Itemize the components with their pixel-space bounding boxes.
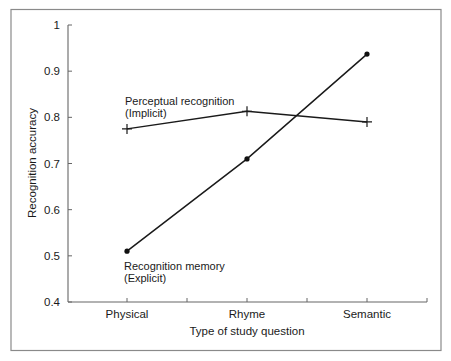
line-chart: 0.40.50.60.70.80.91 PhysicalRhymeSemanti… [0, 0, 451, 361]
explicit-series-label-line2: (Explicit) [124, 272, 166, 284]
explicit-series-line [127, 54, 367, 251]
dot-marker-icon [124, 249, 129, 254]
x-axis-title: Type of study question [189, 325, 304, 337]
y-tick-label: 0.8 [44, 111, 60, 123]
chart-frame [11, 10, 441, 351]
y-tick-label: 0.6 [44, 204, 60, 216]
y-axis: 0.40.50.60.70.80.91 [44, 19, 72, 308]
y-tick-label: 0.9 [44, 65, 60, 77]
series-layer [122, 51, 372, 253]
y-tick-label: 0.4 [44, 296, 61, 308]
dot-marker-icon [364, 51, 369, 56]
plus-marker-icon [242, 106, 252, 116]
x-axis: PhysicalRhymeSemantic [68, 298, 427, 320]
x-tick-label: Semantic [343, 308, 391, 320]
implicit-series-label-line2: (Implicit) [125, 107, 167, 119]
dot-marker-icon [244, 156, 249, 161]
y-tick-label: 1 [54, 19, 60, 31]
y-tick-label: 0.5 [44, 250, 60, 262]
x-tick-label: Physical [106, 308, 149, 320]
explicit-series-label-line1: Recognition memory [124, 260, 225, 272]
plus-marker-icon [362, 117, 372, 127]
y-tick-label: 0.7 [44, 158, 60, 170]
implicit-series-label-line1: Perceptual recognition [125, 95, 234, 107]
y-axis-title: Recognition accuracy [26, 108, 38, 218]
x-tick-label: Rhyme [229, 308, 265, 320]
plus-marker-icon [122, 124, 132, 134]
